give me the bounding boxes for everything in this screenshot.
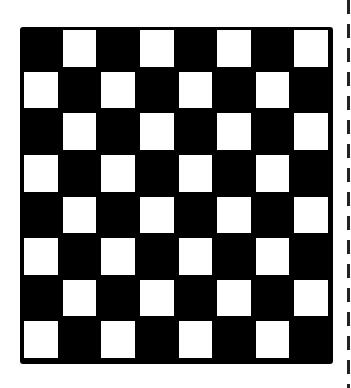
board-square: [177, 237, 216, 279]
board-square: [177, 279, 216, 321]
board-square: [138, 279, 177, 321]
board-square: [215, 237, 254, 279]
board-square: [138, 154, 177, 196]
board-square: [215, 71, 254, 113]
board-square: [99, 29, 138, 71]
board-square: [215, 29, 254, 71]
board-square: [292, 196, 331, 238]
dashed-divider: [347, 0, 350, 388]
board-square: [61, 71, 100, 113]
board-square: [215, 279, 254, 321]
board-square: [254, 237, 293, 279]
board-square: [22, 112, 61, 154]
board-square: [292, 154, 331, 196]
board-square: [99, 154, 138, 196]
board-square: [177, 154, 216, 196]
board-square: [61, 279, 100, 321]
board-square: [254, 279, 293, 321]
board-square: [22, 320, 61, 362]
board-square: [292, 71, 331, 113]
board-square: [99, 196, 138, 238]
board-square: [254, 112, 293, 154]
board-square: [99, 71, 138, 113]
board-square: [292, 320, 331, 362]
board-square: [61, 29, 100, 71]
checkerboard: [20, 27, 333, 364]
board-square: [138, 237, 177, 279]
board-square: [61, 112, 100, 154]
board-square: [138, 71, 177, 113]
board-square: [138, 29, 177, 71]
board-square: [292, 279, 331, 321]
board-square: [99, 279, 138, 321]
board-square: [99, 112, 138, 154]
board-square: [177, 320, 216, 362]
board-square: [138, 320, 177, 362]
board-square: [177, 112, 216, 154]
board-square: [138, 196, 177, 238]
board-square: [254, 320, 293, 362]
board-square: [292, 237, 331, 279]
board-square: [215, 320, 254, 362]
board-square: [292, 112, 331, 154]
board-square: [61, 154, 100, 196]
board-square: [215, 154, 254, 196]
board-square: [99, 237, 138, 279]
board-square: [215, 112, 254, 154]
board-square: [177, 29, 216, 71]
board-square: [254, 154, 293, 196]
board-square: [215, 196, 254, 238]
board-square: [22, 154, 61, 196]
board-square: [22, 71, 61, 113]
board-square: [177, 71, 216, 113]
board-square: [22, 29, 61, 71]
checkerboard-grid: [22, 29, 331, 362]
board-square: [61, 237, 100, 279]
board-square: [22, 196, 61, 238]
board-square: [61, 320, 100, 362]
board-square: [254, 71, 293, 113]
board-square: [254, 29, 293, 71]
board-square: [61, 196, 100, 238]
board-square: [177, 196, 216, 238]
board-square: [22, 237, 61, 279]
board-square: [99, 320, 138, 362]
board-square: [254, 196, 293, 238]
board-square: [292, 29, 331, 71]
board-square: [22, 279, 61, 321]
board-square: [138, 112, 177, 154]
